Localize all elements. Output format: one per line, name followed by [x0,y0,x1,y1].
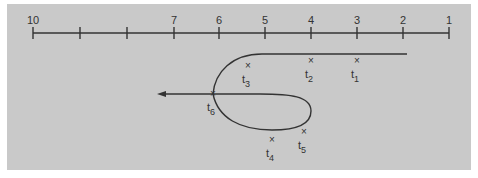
axis-tick-label: 4 [308,14,314,26]
arrow-head-icon [157,91,166,97]
time-markers: ×t1×t2×t3×t4×t5×t6 [207,55,360,163]
axis-tick-label: 2 [400,14,406,26]
marker-label: t5 [298,139,306,155]
marker-t3: ×t3 [242,60,251,89]
cross-mark-icon: × [308,55,314,66]
marker-label: t4 [266,147,274,163]
marker-t2: ×t2 [305,55,314,84]
marker-t4: ×t4 [266,134,275,163]
axis-tick-label: 1 [446,14,452,26]
axis-tick-label: 10 [27,14,39,26]
marker-t5: ×t5 [298,126,307,155]
marker-label: t1 [351,68,359,84]
axis-tick-labels: 107654321 [27,14,452,26]
marker-label: t2 [305,68,313,84]
cross-mark-icon: × [354,55,360,66]
marker-label: t6 [207,101,215,117]
cross-mark-icon: × [245,60,251,71]
trajectory-loop-path [213,94,311,130]
cross-mark-icon: × [210,88,216,99]
marker-t1: ×t1 [351,55,360,84]
marker-label: t3 [242,73,250,89]
axis-tick-label: 5 [262,14,268,26]
axis-tick-label: 7 [171,14,177,26]
axis-tick-label: 6 [216,14,222,26]
axis-tick-label: 3 [354,14,360,26]
marker-t6: ×t6 [207,88,216,117]
cross-mark-icon: × [301,126,307,137]
trajectory-diagram: 107654321 ×t1×t2×t3×t4×t5×t6 [0,0,478,178]
cross-mark-icon: × [269,134,275,145]
